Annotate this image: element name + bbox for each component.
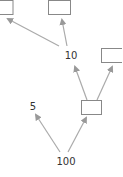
edge-right-to-right-right bbox=[97, 67, 112, 100]
node-root-label: 100 bbox=[56, 156, 75, 167]
node-right-box bbox=[82, 101, 102, 115]
edge-root-to-right bbox=[68, 118, 86, 152]
node-right-right-box bbox=[102, 49, 123, 63]
node-mid-label: 10 bbox=[65, 50, 78, 61]
edge-mid-to-mid-left bbox=[8, 19, 59, 46]
edge-root-to-left bbox=[36, 115, 60, 152]
node-mid-right-box bbox=[49, 1, 71, 15]
node-left-label: 5 bbox=[30, 101, 36, 112]
factor-tree-diagram: 10 5 100 bbox=[0, 0, 122, 177]
edge-right-to-mid bbox=[75, 67, 87, 100]
edge-mid-to-mid-right bbox=[62, 20, 67, 46]
node-mid-left-box bbox=[0, 1, 13, 15]
